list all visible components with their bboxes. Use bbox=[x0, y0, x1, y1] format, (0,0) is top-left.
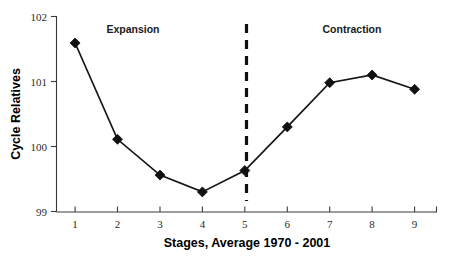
series-markers bbox=[70, 38, 420, 197]
data-point-9 bbox=[410, 84, 420, 94]
x-tick-label-2: 2 bbox=[115, 218, 121, 230]
x-tick-label-1: 1 bbox=[72, 218, 78, 230]
chart-canvas: 102 101 100 99 1 2 3 4 5 6 7 8 9 Stages,… bbox=[0, 0, 458, 259]
data-point-1 bbox=[70, 38, 80, 48]
y-tick-label-99: 99 bbox=[36, 206, 48, 218]
annotation-expansion: Expansion bbox=[106, 23, 159, 35]
y-axis-title: Cycle Relatives bbox=[9, 68, 23, 160]
annotation-contraction: Contraction bbox=[323, 23, 382, 35]
data-point-8 bbox=[367, 70, 377, 80]
x-tick-label-5: 5 bbox=[242, 218, 248, 230]
x-tick-label-8: 8 bbox=[369, 218, 375, 230]
data-point-4 bbox=[197, 187, 207, 197]
x-tick-label-9: 9 bbox=[412, 218, 418, 230]
x-axis-title: Stages, Average 1970 - 2001 bbox=[164, 236, 331, 250]
x-tick-label-7: 7 bbox=[327, 218, 333, 230]
y-tick-label-102: 102 bbox=[31, 11, 48, 23]
line-chart: 102 101 100 99 1 2 3 4 5 6 7 8 9 Stages,… bbox=[0, 0, 458, 259]
x-tick-label-6: 6 bbox=[285, 218, 291, 230]
x-tick-label-4: 4 bbox=[200, 218, 206, 230]
y-tick-label-100: 100 bbox=[31, 141, 48, 153]
x-tick-label-3: 3 bbox=[157, 218, 163, 230]
y-tick-label-101: 101 bbox=[31, 76, 48, 88]
